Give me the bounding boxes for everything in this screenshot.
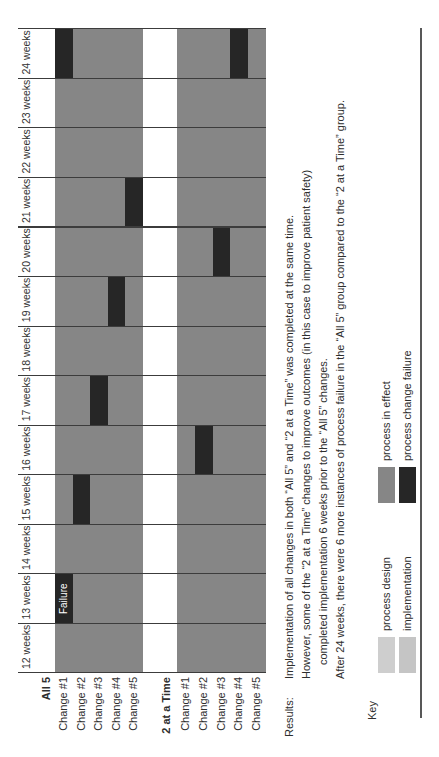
week-grid-line [18, 375, 266, 376]
change-row-label: Change #5 [250, 677, 262, 757]
process-grid: Failure12 weeks13 weeks14 weeks15 weeks1… [0, 0, 439, 757]
results-line: Implementation of all changes in both “A… [283, 215, 295, 679]
week-axis-label: 24 weeks [20, 30, 32, 74]
results-line: However, some of the “2 at a Time” chang… [300, 170, 312, 679]
change-row-label: Change #1 [179, 677, 191, 757]
week-grid-line [18, 28, 266, 29]
process-change-failure-cell [213, 227, 231, 277]
week-axis-label: 21 weeks [20, 179, 32, 223]
week-axis-label: 23 weeks [20, 80, 32, 124]
change-row-label: Change #4 [232, 677, 244, 757]
week-grid-line [18, 177, 266, 178]
week-grid-line [18, 78, 266, 79]
week-axis-label: 18 weeks [20, 327, 32, 371]
process-change-failure-cell [125, 178, 143, 228]
process-change-failure-cell [195, 425, 213, 475]
process-change-failure-cell [90, 376, 108, 426]
bottom-rule [420, 28, 422, 718]
process-in-effect-band [177, 30, 266, 673]
group-label: All 5 [40, 677, 52, 757]
week-axis-label: 15 weeks [20, 476, 32, 520]
change-row-label: Change #3 [92, 677, 104, 757]
results-line: After 24 weeks, there were 6 more instan… [334, 100, 346, 679]
week-axis-label: 22 weeks [20, 129, 32, 173]
week-grid-line [18, 226, 266, 227]
key-label: Key [366, 701, 378, 720]
week-axis-label: 12 weeks [20, 625, 32, 669]
week-grid-line [18, 127, 266, 128]
change-row-label: Change #4 [110, 677, 122, 757]
change-row-label: Change #3 [215, 677, 227, 757]
week-grid-line [18, 474, 266, 475]
week-axis-label: 14 weeks [20, 526, 32, 570]
key-item-label: process change failure [401, 350, 413, 461]
group-label: 2 at a Time [160, 677, 172, 757]
week-axis-label: 13 weeks [20, 575, 32, 619]
change-row-label: Change #2 [197, 677, 209, 757]
key-item-label: implementation [401, 556, 413, 631]
key-swatch-implementation [399, 637, 416, 673]
week-grid-line [18, 672, 266, 673]
change-row-label: Change #2 [75, 677, 87, 757]
key-swatch-process_in_effect [378, 467, 395, 503]
process-change-failure-cell [55, 29, 73, 79]
week-grid-line [18, 326, 266, 327]
process-change-failure-cell [73, 475, 91, 525]
key-swatch-process_design [378, 637, 395, 673]
results-label: Results: [283, 697, 295, 737]
week-grid-line [18, 276, 266, 277]
key-item-label: process in effect [380, 381, 392, 461]
process-change-failure-cell: Failure [55, 574, 73, 624]
rotated-figure-page: Failure12 weeks13 weeks14 weeks15 weeks1… [0, 0, 439, 757]
week-axis-label: 16 weeks [20, 426, 32, 470]
change-row-label: Change #5 [127, 677, 139, 757]
week-grid-line [18, 573, 266, 574]
change-row-label: Change #1 [57, 677, 69, 757]
week-axis-label: 20 weeks [20, 228, 32, 272]
week-grid-line [18, 425, 266, 426]
results-line: completed implementation 6 weeks prior t… [317, 358, 329, 665]
process-change-failure-cell [108, 277, 126, 327]
key-item-label: process design [380, 557, 392, 631]
key-swatch-process_change_failure [399, 467, 416, 503]
week-axis-label: 19 weeks [20, 278, 32, 322]
week-grid-line [18, 623, 266, 624]
failure-cell-label: Failure [58, 583, 69, 614]
week-grid-line [18, 524, 266, 525]
process-change-failure-cell [230, 29, 248, 79]
week-axis-label: 17 weeks [20, 377, 32, 421]
chart-stage: Failure12 weeks13 weeks14 weeks15 weeks1… [0, 0, 439, 757]
